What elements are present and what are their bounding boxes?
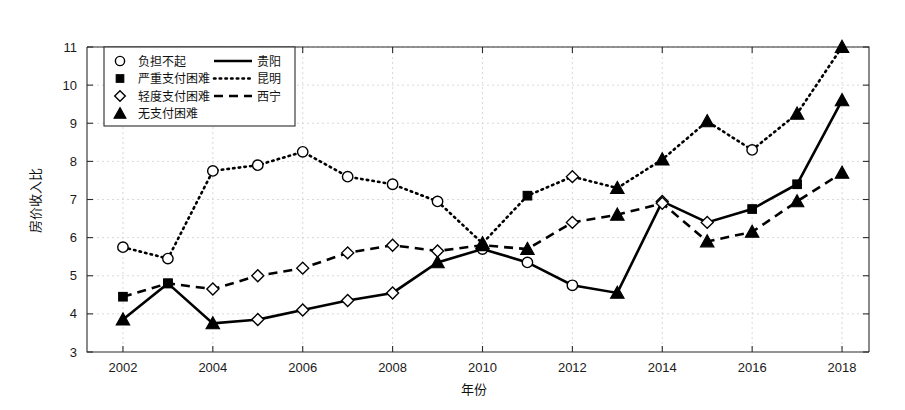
- house-price-income-ratio-chart: 34567891011 2002200420062008201020122014…: [0, 0, 905, 410]
- y-tick-label: 3: [70, 345, 77, 360]
- x-axis-title: 年份: [461, 382, 487, 397]
- marker-circle: [522, 257, 532, 267]
- legend-line-label: 昆明: [257, 72, 281, 86]
- x-tick-label: 2014: [648, 360, 677, 375]
- marker-circle: [163, 253, 173, 263]
- legend-marker-label: 负担不起: [138, 55, 186, 69]
- x-tick-label: 2006: [288, 360, 317, 375]
- chart-legend: 负担不起严重支付困难轻度支付困难无支付困难贵阳昆明西宁: [104, 47, 295, 126]
- marker-square: [119, 292, 128, 301]
- x-tick-label: 2010: [468, 360, 497, 375]
- marker-square: [793, 180, 802, 189]
- marker-circle: [342, 171, 352, 181]
- x-tick-label: 2012: [558, 360, 587, 375]
- legend-marker-label: 轻度支付困难: [138, 89, 210, 104]
- marker-circle: [747, 145, 757, 155]
- x-tick-label: 2008: [378, 360, 407, 375]
- y-tick-label: 8: [70, 154, 77, 169]
- legend-marker-label: 严重支付困难: [138, 72, 210, 86]
- y-tick-label: 9: [70, 116, 77, 131]
- legend-line-label: 贵阳: [257, 55, 281, 69]
- y-tick-label: 11: [64, 40, 78, 55]
- x-tick-label: 2004: [198, 360, 227, 375]
- legend-line-label: 西宁: [257, 89, 281, 104]
- marker-square: [164, 279, 173, 288]
- y-tick-label: 4: [70, 306, 77, 321]
- marker-circle: [432, 196, 442, 206]
- y-tick-label: 7: [70, 192, 77, 207]
- x-tick-label: 2002: [108, 360, 137, 375]
- marker-circle: [567, 280, 577, 290]
- y-tick-label: 10: [63, 78, 77, 93]
- marker-circle: [115, 56, 124, 65]
- marker-circle: [387, 179, 397, 189]
- x-tick-label: 2018: [828, 360, 857, 375]
- y-tick-label: 6: [70, 230, 77, 245]
- legend-marker-label: 无支付困难: [138, 107, 198, 121]
- marker-circle: [208, 166, 218, 176]
- marker-square: [748, 205, 757, 214]
- y-tick-label: 5: [70, 268, 77, 283]
- marker-circle: [298, 147, 308, 157]
- y-axis-title: 房价收入比: [28, 168, 43, 233]
- marker-square: [523, 191, 532, 200]
- marker-circle: [118, 242, 128, 252]
- x-tick-label: 2016: [738, 360, 767, 375]
- marker-circle: [253, 160, 263, 170]
- marker-square: [116, 75, 124, 83]
